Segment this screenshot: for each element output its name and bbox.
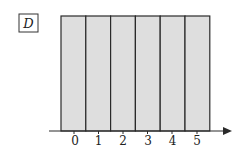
bar-5 xyxy=(185,16,210,131)
diagram-canvas: D 0 1 2 3 4 5 xyxy=(0,0,241,153)
bar-1 xyxy=(86,16,111,131)
tick-label-4: 4 xyxy=(169,134,177,148)
bar-4 xyxy=(160,16,185,131)
figure-label: D xyxy=(22,16,34,31)
bar-3 xyxy=(135,16,160,131)
bars-group xyxy=(61,16,210,131)
arrow-head-icon xyxy=(223,127,232,135)
bar-2 xyxy=(111,16,136,131)
tick-label-2: 2 xyxy=(119,134,127,148)
tick-label-1: 1 xyxy=(95,134,103,148)
figure-label-box: D xyxy=(19,14,38,32)
tick-label-5: 5 xyxy=(193,134,201,148)
bar-0 xyxy=(61,16,86,131)
tick-label-3: 3 xyxy=(144,134,152,148)
tick-label-0: 0 xyxy=(71,134,79,148)
